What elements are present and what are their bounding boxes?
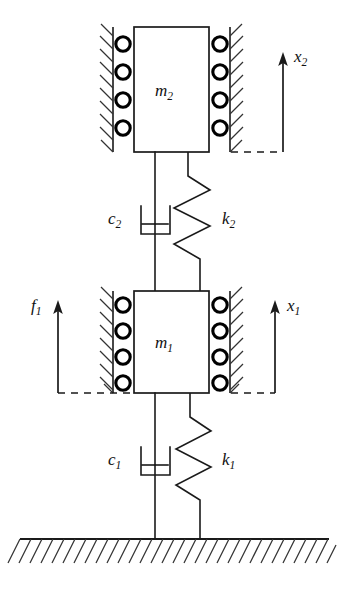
displacement-label-x2: x2: [293, 47, 308, 68]
k1-coil: [176, 393, 211, 539]
mechanical-system-diagram: m2 x2 c2: [0, 0, 343, 596]
force-label-f1: f1: [31, 296, 41, 317]
damper-label-c1: c1: [108, 450, 121, 471]
mass-m2-assembly: m2: [100, 24, 243, 152]
damper-label-c2: c2: [108, 209, 122, 230]
rollers-right-m1: [213, 298, 227, 390]
k2-coil: [174, 152, 210, 291]
ground-hatching: [8, 539, 336, 563]
wall-right-m1: [230, 287, 243, 393]
spring-label-k2: k2: [222, 209, 236, 230]
damper-c1: c1: [108, 393, 170, 539]
damper-c2: c2: [108, 152, 170, 291]
rollers-right-m2: [213, 37, 227, 135]
displacement-label-x1: x1: [286, 296, 300, 317]
mass-m1-assembly: m1: [100, 287, 243, 393]
wall-right-m1-hatching: [230, 287, 243, 393]
wall-left-m1-hatching: [100, 287, 113, 393]
spring-label-k1: k1: [222, 450, 235, 471]
wall-right-m2: [230, 24, 243, 152]
ground: [8, 539, 336, 563]
schematic-svg: m2 x2 c2: [0, 0, 343, 596]
spring-k1: k1: [176, 393, 235, 539]
wall-right-m2-hatching: [230, 24, 243, 152]
rollers-left-m2: [116, 37, 130, 135]
wall-left-m2-hatching: [100, 24, 113, 152]
wall-left-m2: [100, 24, 113, 152]
wall-left-m1: [100, 287, 113, 393]
spring-k2: k2: [174, 152, 236, 291]
rollers-left-m1: [116, 298, 130, 390]
